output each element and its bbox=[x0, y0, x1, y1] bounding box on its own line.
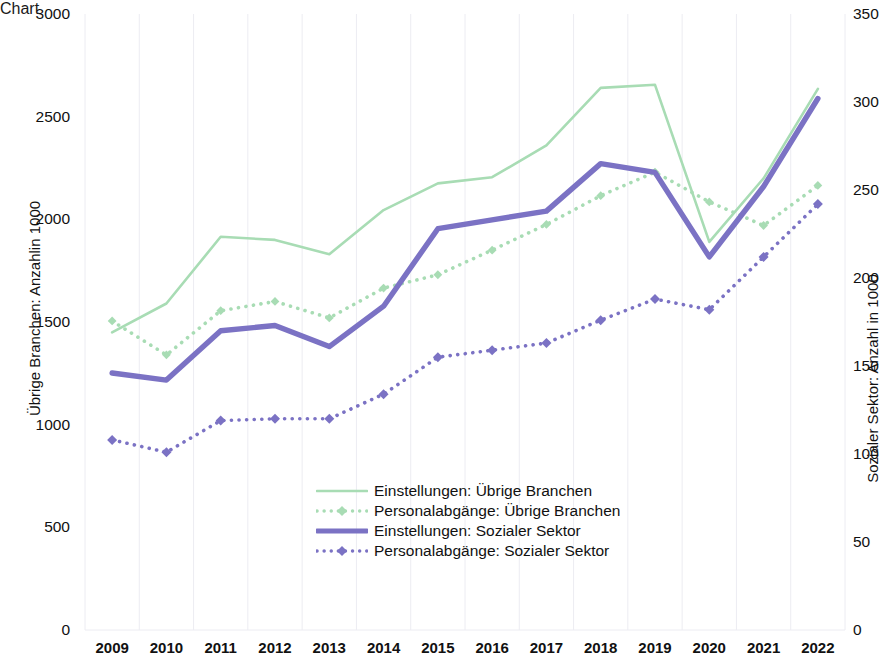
left-tick-500: 500 bbox=[10, 519, 70, 535]
left-tick-1500: 1500 bbox=[10, 314, 70, 330]
x-tick-2018: 2018 bbox=[571, 640, 631, 655]
left-tick-3000: 3000 bbox=[10, 6, 70, 22]
legend-item-2[interactable]: Einstellungen: Sozialer Sektor bbox=[316, 521, 620, 541]
series-marker-3 bbox=[107, 435, 117, 445]
left-tick-0: 0 bbox=[10, 622, 70, 638]
left-tick-1000: 1000 bbox=[10, 417, 70, 433]
x-tick-2014: 2014 bbox=[354, 640, 414, 655]
legend-item-1[interactable]: Personalabgänge: Übrige Branchen bbox=[316, 501, 620, 521]
chart-figure: Übrige Branchen: Anzahlin 1000 Sozialer … bbox=[0, 0, 892, 665]
legend-label-1: Personalabgänge: Übrige Branchen bbox=[374, 503, 620, 519]
x-tick-2009: 2009 bbox=[82, 640, 142, 655]
left-tick-2000: 2000 bbox=[10, 211, 70, 227]
legend-item-0[interactable]: Einstellungen: Übrige Branchen bbox=[316, 481, 620, 501]
series-marker-3 bbox=[433, 352, 443, 362]
legend-label-0: Einstellungen: Übrige Branchen bbox=[374, 483, 592, 499]
x-tick-2017: 2017 bbox=[516, 640, 576, 655]
right-tick-250: 250 bbox=[853, 182, 892, 198]
series-marker-3 bbox=[596, 315, 606, 325]
series-marker-3 bbox=[270, 414, 280, 424]
series-marker-1 bbox=[813, 181, 822, 190]
x-tick-2019: 2019 bbox=[625, 640, 685, 655]
right-tick-150: 150 bbox=[853, 358, 892, 374]
x-tick-2015: 2015 bbox=[408, 640, 468, 655]
series-marker-3 bbox=[379, 389, 389, 399]
x-tick-2013: 2013 bbox=[299, 640, 359, 655]
right-tick-350: 350 bbox=[853, 6, 892, 22]
legend-swatch-icon-0 bbox=[316, 483, 368, 499]
right-axis-title: Sozialer Sektor: Anzahl in 1000 bbox=[864, 249, 881, 509]
left-tick-2500: 2500 bbox=[10, 109, 70, 125]
x-tick-2021: 2021 bbox=[734, 640, 794, 655]
series-marker-3 bbox=[650, 294, 660, 304]
series-marker-3 bbox=[813, 199, 823, 209]
x-tick-2012: 2012 bbox=[245, 640, 305, 655]
series-marker-3 bbox=[487, 345, 497, 355]
series-marker-3 bbox=[541, 338, 551, 348]
series-marker-1 bbox=[271, 297, 280, 306]
series-marker-1 bbox=[433, 270, 442, 279]
x-tick-2011: 2011 bbox=[191, 640, 251, 655]
series-marker-1 bbox=[108, 317, 117, 326]
legend-swatch-icon-2 bbox=[316, 523, 368, 539]
x-tick-2010: 2010 bbox=[136, 640, 196, 655]
x-tick-2022: 2022 bbox=[788, 640, 848, 655]
legend-label-2: Einstellungen: Sozialer Sektor bbox=[374, 523, 581, 539]
right-tick-50: 50 bbox=[853, 534, 892, 550]
series-marker-3 bbox=[324, 414, 334, 424]
series-marker-1 bbox=[488, 246, 497, 255]
right-tick-200: 200 bbox=[853, 270, 892, 286]
legend-label-3: Personalabgänge: Sozialer Sektor bbox=[374, 543, 609, 559]
x-tick-2020: 2020 bbox=[679, 640, 739, 655]
legend-swatch-icon-1 bbox=[316, 503, 368, 519]
legend-swatch-icon-3 bbox=[316, 543, 368, 559]
x-tick-2016: 2016 bbox=[462, 640, 522, 655]
right-tick-0: 0 bbox=[853, 622, 892, 638]
chart-legend: Einstellungen: Übrige BranchenPersonalab… bbox=[316, 481, 620, 561]
legend-item-3[interactable]: Personalabgänge: Sozialer Sektor bbox=[316, 541, 620, 561]
right-tick-100: 100 bbox=[853, 446, 892, 462]
right-tick-300: 300 bbox=[853, 94, 892, 110]
